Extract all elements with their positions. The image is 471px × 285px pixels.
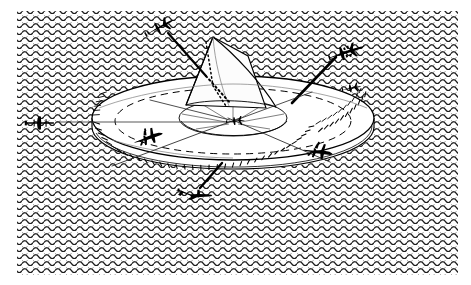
radar-dish-illustration	[0, 0, 471, 285]
figure-canvas	[0, 0, 471, 285]
